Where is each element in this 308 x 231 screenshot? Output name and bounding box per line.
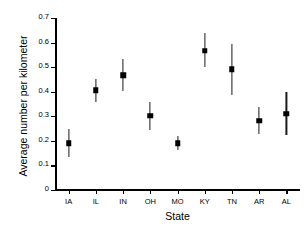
y-tick-mark: [51, 18, 55, 19]
y-tick-label: 0.7: [39, 12, 49, 21]
x-tick-mark: [96, 190, 97, 194]
data-point: [175, 141, 181, 147]
x-tick-mark: [232, 190, 233, 194]
data-point: [256, 118, 262, 124]
y-tick-label: 0.1: [39, 159, 49, 168]
x-tick-label: KY: [200, 197, 210, 206]
plot-area: 00.10.20.30.40.50.60.7 IAILINOHMOKYTNARA…: [55, 18, 300, 190]
x-tick-mark: [69, 190, 70, 194]
data-point: [284, 111, 290, 117]
y-tick-mark: [51, 116, 55, 117]
data-point: [148, 113, 154, 119]
x-tick-label: MO: [171, 197, 183, 206]
x-tick-label: AR: [254, 197, 264, 206]
y-tick-label: 0.4: [39, 86, 49, 95]
data-point: [120, 73, 126, 79]
data-point: [202, 48, 208, 54]
x-tick-mark: [150, 190, 151, 194]
y-tick-label: 0.5: [39, 61, 49, 70]
data-point: [66, 141, 72, 147]
y-axis-line: [55, 18, 57, 190]
x-tick-label: IA: [65, 197, 72, 206]
x-tick-mark: [123, 190, 124, 194]
data-point: [93, 88, 99, 94]
y-tick-label: 0.3: [39, 110, 49, 119]
x-axis-title: State: [55, 210, 300, 222]
x-tick-label: TN: [227, 197, 237, 206]
y-tick-mark: [51, 165, 55, 166]
y-tick-label: 0.6: [39, 37, 49, 46]
y-tick-mark: [51, 190, 55, 191]
y-tick-label: 0: [45, 184, 49, 193]
x-tick-label: AL: [282, 197, 291, 206]
data-point: [229, 66, 235, 72]
y-axis-title: Average number per kilometer: [16, 11, 30, 201]
y-tick-mark: [51, 141, 55, 142]
y-tick-label: 0.2: [39, 135, 49, 144]
x-tick-mark: [286, 190, 287, 194]
x-tick-mark: [205, 190, 206, 194]
x-tick-label: OH: [145, 197, 156, 206]
x-tick-label: IN: [119, 197, 127, 206]
x-tick-label: IL: [93, 197, 99, 206]
x-tick-mark: [259, 190, 260, 194]
y-tick-mark: [51, 67, 55, 68]
x-tick-mark: [178, 190, 179, 194]
y-tick-mark: [51, 92, 55, 93]
y-tick-mark: [51, 43, 55, 44]
chart-figure: Average number per kilometer 00.10.20.30…: [0, 0, 308, 231]
